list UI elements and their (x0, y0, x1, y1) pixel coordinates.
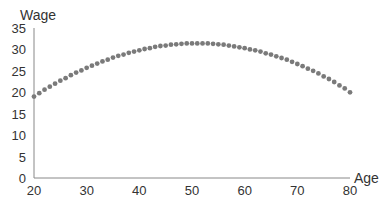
y-tick-label: 20 (12, 85, 26, 100)
data-point (295, 62, 300, 67)
data-point (121, 52, 126, 57)
y-tick-label: 25 (12, 64, 26, 79)
data-point (90, 63, 95, 68)
data-point (147, 46, 152, 51)
x-tick-label: 70 (290, 183, 304, 198)
y-tick-label: 5 (19, 150, 26, 165)
data-point (158, 44, 163, 49)
data-point (174, 42, 179, 47)
data-point (32, 94, 37, 99)
x-tick-label: 30 (79, 183, 93, 198)
data-point (211, 41, 216, 46)
y-tick-label: 15 (12, 107, 26, 122)
data-points (32, 41, 353, 99)
data-point (311, 68, 316, 73)
data-point (142, 47, 147, 52)
data-point (126, 50, 131, 55)
data-point (300, 64, 305, 69)
data-point (195, 41, 200, 46)
data-point (184, 41, 189, 46)
data-point (105, 57, 110, 62)
data-point (137, 48, 142, 53)
data-point (205, 41, 210, 46)
data-point (232, 44, 237, 49)
wage-age-chart: Wage Age 05101520253035 20304050607080 (0, 0, 389, 207)
data-point (321, 74, 326, 79)
data-point (179, 41, 184, 46)
x-tick-label: 80 (343, 183, 357, 198)
data-point (111, 55, 116, 60)
data-point (216, 42, 221, 47)
data-point (242, 46, 247, 51)
x-tick-label: 60 (237, 183, 251, 198)
data-point (79, 68, 84, 73)
data-point (226, 43, 231, 48)
data-point (74, 70, 79, 75)
y-tick-label: 35 (12, 21, 26, 36)
data-point (269, 52, 274, 57)
y-ticks: 05101520253035 (12, 21, 26, 186)
data-point (263, 51, 268, 56)
data-point (284, 57, 289, 62)
x-tick-label: 40 (132, 183, 146, 198)
data-point (348, 90, 353, 95)
data-point (316, 71, 321, 76)
data-point (305, 66, 310, 71)
data-point (337, 83, 342, 88)
data-point (327, 77, 332, 82)
data-point (342, 86, 347, 91)
data-point (169, 42, 174, 47)
data-point (200, 41, 205, 46)
data-point (274, 54, 279, 59)
data-point (53, 81, 58, 86)
data-point (58, 78, 63, 83)
data-point (221, 42, 226, 47)
x-ticks: 20304050607080 (27, 183, 357, 198)
data-point (132, 49, 137, 54)
data-point (42, 87, 47, 92)
x-tick-label: 50 (185, 183, 199, 198)
data-point (290, 59, 295, 64)
data-point (163, 43, 168, 48)
data-point (248, 47, 253, 52)
data-point (332, 80, 337, 85)
y-tick-label: 0 (19, 171, 26, 186)
data-point (47, 84, 52, 89)
data-point (84, 65, 89, 70)
data-point (190, 41, 195, 46)
data-point (279, 56, 284, 61)
data-point (37, 91, 42, 96)
data-point (153, 44, 158, 49)
x-axis-label: Age (354, 170, 379, 186)
data-point (68, 73, 73, 78)
data-point (100, 59, 105, 64)
data-point (237, 45, 242, 50)
data-point (253, 48, 258, 53)
y-tick-label: 30 (12, 42, 26, 57)
data-point (95, 61, 100, 66)
data-point (63, 76, 68, 81)
y-tick-label: 10 (12, 128, 26, 143)
x-tick-label: 20 (27, 183, 41, 198)
data-point (258, 49, 263, 54)
data-point (116, 53, 121, 58)
